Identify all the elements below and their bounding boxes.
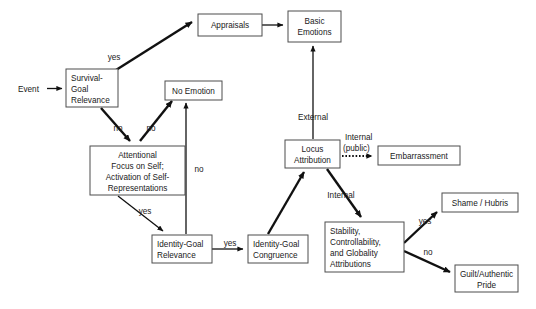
edge-label-no-stability-to-guilt: no bbox=[423, 248, 433, 257]
node-label-guilt-authentic-pride-line-0: Guilt/Authentic bbox=[460, 270, 513, 279]
node-label-embarrassment: Embarrassment bbox=[390, 152, 449, 161]
edge-attentional-to-no-emotion bbox=[140, 101, 172, 141]
edge-label-internal-public-line-2: (public) bbox=[343, 144, 370, 153]
node-attentional-focus[interactable]: Attentional Focus on Self; Activation of… bbox=[90, 146, 185, 195]
node-label-survival-goal-relevance-line-0: Survival- bbox=[71, 74, 103, 83]
node-label-identity-goal-congruence-line-0: Identity-Goal bbox=[253, 240, 300, 249]
edge-label-external-locus-to-basic: External bbox=[298, 113, 328, 122]
node-survival-goal-relevance[interactable]: Survival- Goal Relevance bbox=[66, 69, 118, 107]
node-label-identity-goal-congruence-line-1: Congruence bbox=[253, 251, 298, 260]
flowchart-canvas: Survival- Goal Relevance Appraisals Basi… bbox=[0, 0, 536, 309]
flowchart-diagram: Survival- Goal Relevance Appraisals Basi… bbox=[0, 0, 536, 309]
node-guilt-authentic-pride[interactable]: Guilt/Authentic Pride bbox=[455, 265, 518, 292]
node-stability-attributions[interactable]: Stability, Controllability, and Globalit… bbox=[325, 222, 404, 272]
node-label-no-emotion: No Emotion bbox=[172, 87, 215, 96]
edge-label-yes-relevance-to-congruence: yes bbox=[224, 239, 237, 248]
node-label-identity-goal-relevance-line-0: Identity-Goal bbox=[157, 240, 204, 249]
edge-label-internal-locus-to-stability: Internal bbox=[327, 191, 354, 200]
edge-label-yes-stability-to-shame: yes bbox=[419, 217, 432, 226]
node-basic-emotions[interactable]: Basic Emotions bbox=[288, 11, 341, 42]
node-shame-hubris[interactable]: Shame / Hubris bbox=[442, 193, 518, 212]
node-box-basic-emotions bbox=[288, 11, 341, 42]
node-label-stability-attributions-line-3: Attributions bbox=[330, 260, 371, 269]
node-embarrassment[interactable]: Embarrassment bbox=[378, 146, 460, 165]
node-label-attentional-focus-line-3: Representations bbox=[108, 184, 168, 193]
node-no-emotion[interactable]: No Emotion bbox=[165, 81, 222, 100]
nodes-layer: Survival- Goal Relevance Appraisals Basi… bbox=[66, 11, 518, 292]
node-label-stability-attributions-line-2: and Globality bbox=[330, 249, 379, 258]
node-label-stability-attributions-line-1: Controllability, bbox=[330, 238, 381, 247]
node-label-attentional-focus-line-1: Focus on Self; bbox=[111, 162, 163, 171]
node-label-guilt-authentic-pride-line-1: Pride bbox=[477, 281, 497, 290]
edge-label-yes-attentional-to-relevance: yes bbox=[139, 207, 152, 216]
node-label-attentional-focus-line-0: Attentional bbox=[118, 151, 157, 160]
node-label-stability-attributions-line-0: Stability, bbox=[330, 227, 360, 236]
edge-label-no-attentional-to-no-emotion: no bbox=[146, 124, 156, 133]
edge-label-yes-survival-to-appraisals: yes bbox=[108, 53, 121, 62]
node-label-identity-goal-relevance-line-1: Relevance bbox=[157, 251, 196, 260]
node-locus-attribution[interactable]: Locus Attribution bbox=[285, 140, 340, 168]
node-label-locus-attribution-line-1: Attribution bbox=[294, 156, 331, 165]
node-label-survival-goal-relevance-line-1: Goal bbox=[71, 85, 88, 94]
node-identity-goal-relevance[interactable]: Identity-Goal Relevance bbox=[152, 235, 212, 263]
node-label-attentional-focus-line-2: Activation of Self- bbox=[106, 173, 170, 182]
edge-survival-to-appraisals bbox=[116, 22, 192, 70]
edge-label-no-relevance-to-no-emotion: no bbox=[194, 165, 204, 174]
entry-label-event: Event bbox=[18, 85, 40, 94]
edge-label-no-survival-to-attentional: no bbox=[113, 124, 123, 133]
node-label-survival-goal-relevance-line-2: Relevance bbox=[71, 96, 110, 105]
node-identity-goal-congruence[interactable]: Identity-Goal Congruence bbox=[248, 235, 308, 263]
edge-congruence-to-locus bbox=[268, 172, 304, 234]
edge-label-internal-public-line-1: Internal bbox=[345, 133, 372, 142]
node-label-appraisals: Appraisals bbox=[211, 21, 249, 30]
node-label-locus-attribution-line-0: Locus bbox=[302, 145, 324, 154]
node-label-shame-hubris: Shame / Hubris bbox=[452, 199, 508, 208]
node-appraisals[interactable]: Appraisals bbox=[198, 14, 262, 36]
node-label-basic-emotions-line-1: Emotions bbox=[297, 28, 331, 37]
node-label-basic-emotions-line-0: Basic bbox=[304, 17, 324, 26]
